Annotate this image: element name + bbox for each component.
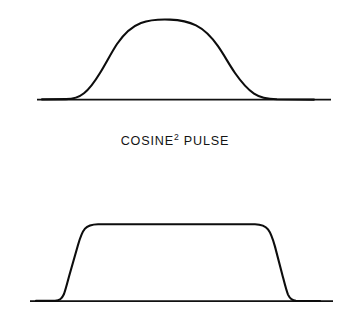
caption-block: COSINE2PULSE bbox=[0, 132, 350, 148]
cosine-squared-pulse-plot bbox=[0, 0, 350, 112]
flat-top-curve bbox=[36, 224, 320, 301]
caption-suffix: PULSE bbox=[184, 134, 230, 148]
cosine-squared-pulse-svg bbox=[0, 0, 350, 112]
caption-prefix: COSINE bbox=[121, 134, 174, 148]
flat-top-pulse-svg bbox=[0, 196, 350, 320]
cosine-squared-curve bbox=[42, 19, 314, 99]
flat-top-pulse-plot bbox=[0, 196, 350, 320]
caption-exponent: 2 bbox=[174, 132, 179, 142]
cosine-squared-pulse-caption: COSINE2PULSE bbox=[121, 135, 230, 148]
figure-root: COSINE2PULSE bbox=[0, 0, 350, 336]
